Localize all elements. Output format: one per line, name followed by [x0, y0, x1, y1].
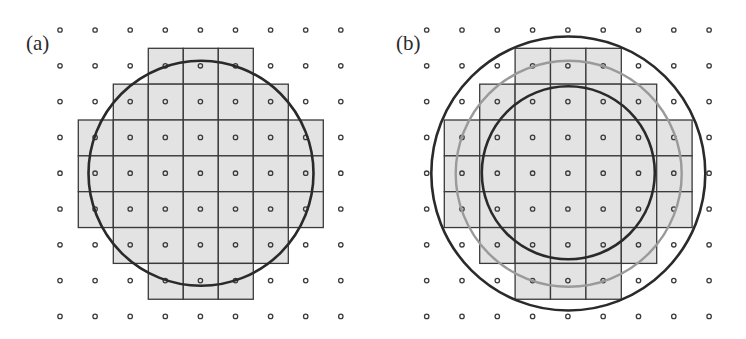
pixel-cell [621, 84, 656, 120]
sample-dot [460, 64, 464, 68]
sample-dot [601, 28, 605, 32]
sample-dot [233, 28, 237, 32]
pixel-cell [218, 120, 253, 156]
sample-dot [58, 207, 62, 211]
pixel-cell [253, 84, 288, 120]
pixel-cell [657, 192, 692, 228]
pixel-cell [480, 228, 515, 264]
figure: (a) (b) [0, 0, 746, 339]
pixel-cell [183, 120, 218, 156]
sample-dot [672, 314, 676, 318]
sample-dot [495, 278, 499, 282]
pixel-cell [113, 228, 148, 264]
pixel-cell [480, 156, 515, 192]
sample-dot [672, 99, 676, 103]
pixel-cell [253, 228, 288, 264]
pixel-cell [621, 228, 656, 264]
sample-dot [672, 278, 676, 282]
pixel-cell [78, 156, 113, 192]
pixel-cell [586, 120, 621, 156]
sample-dot [672, 243, 676, 247]
pixel-cell [148, 120, 183, 156]
sample-dot [425, 207, 429, 211]
sample-dot [530, 314, 534, 318]
panel-b [425, 28, 712, 319]
pixel-cell [218, 84, 253, 120]
pixel-cell [551, 263, 586, 299]
sample-dot [163, 314, 167, 318]
pixel-cell [621, 156, 656, 192]
sample-dot [425, 278, 429, 282]
sample-dot [58, 243, 62, 247]
sample-dot [339, 99, 343, 103]
sample-dot [601, 314, 605, 318]
sample-dot [707, 278, 711, 282]
panel-b-label: (b) [396, 33, 421, 54]
pixel-cell [78, 120, 113, 156]
pixel-cell [183, 48, 218, 84]
pixel-cell [218, 156, 253, 192]
sample-dot [163, 28, 167, 32]
sample-dot [93, 314, 97, 318]
sample-dot [339, 64, 343, 68]
pixel-cell [113, 156, 148, 192]
sample-dot [339, 207, 343, 211]
pixel-cell [515, 120, 550, 156]
sample-dot [707, 171, 711, 175]
sample-dot [425, 314, 429, 318]
sample-dot [58, 28, 62, 32]
pixel-cell [183, 228, 218, 264]
sample-dot [460, 243, 464, 247]
sample-dot [128, 28, 132, 32]
sample-dot [93, 28, 97, 32]
sample-dot [460, 278, 464, 282]
pixel-cell [551, 48, 586, 84]
sample-dot [530, 28, 534, 32]
pixel-cell [480, 84, 515, 120]
sample-dot [460, 99, 464, 103]
sample-dot [93, 243, 97, 247]
sample-dot [198, 314, 202, 318]
sample-dot [672, 28, 676, 32]
pixel-cell [148, 192, 183, 228]
sample-dot [707, 99, 711, 103]
sample-dot [460, 28, 464, 32]
pixel-cell [288, 192, 323, 228]
sample-dot [304, 243, 308, 247]
sample-dot [58, 171, 62, 175]
pixel-cell [657, 120, 692, 156]
sample-dot [636, 314, 640, 318]
sample-dot [566, 314, 570, 318]
pixel-cell [515, 192, 550, 228]
pixel-cell [148, 156, 183, 192]
sample-dot [672, 64, 676, 68]
sample-dot [268, 314, 272, 318]
sample-dot [425, 243, 429, 247]
pixel-cell [183, 84, 218, 120]
sample-dot [268, 28, 272, 32]
sample-dot [339, 314, 343, 318]
sample-dot [636, 64, 640, 68]
sample-dot [58, 135, 62, 139]
sample-dot [495, 64, 499, 68]
sample-dot [636, 28, 640, 32]
pixel-cell [183, 156, 218, 192]
panel-a [58, 28, 343, 319]
pixel-cell [586, 192, 621, 228]
sample-dot [268, 64, 272, 68]
sample-dot [339, 28, 343, 32]
sample-dot [339, 171, 343, 175]
sample-dot [425, 28, 429, 32]
sample-dot [339, 135, 343, 139]
sample-dot [636, 278, 640, 282]
pixel-cell [288, 120, 323, 156]
sample-dot [707, 314, 711, 318]
sample-dot [707, 135, 711, 139]
sample-dot [268, 278, 272, 282]
sample-dot [128, 314, 132, 318]
sample-dot [304, 278, 308, 282]
pixel-cell [183, 192, 218, 228]
pixel-cell [657, 156, 692, 192]
pixel-cell [288, 156, 323, 192]
sample-dot [128, 64, 132, 68]
